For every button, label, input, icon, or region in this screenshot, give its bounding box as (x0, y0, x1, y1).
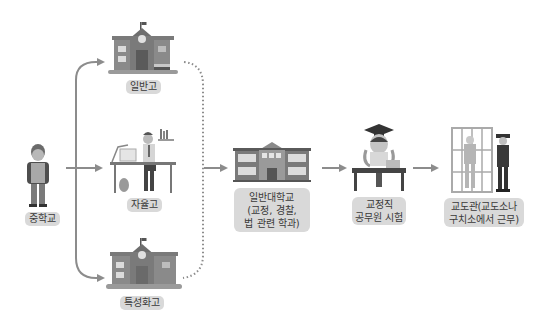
school-building-icon (108, 22, 178, 76)
graduate-studying-icon (350, 122, 408, 192)
prison-guard-icon (448, 126, 518, 194)
arrow-to-general-high (76, 62, 103, 168)
student-with-backpack-icon (18, 142, 58, 210)
autonomous-high-label: 자율고 (127, 198, 162, 212)
school-building-icon (106, 238, 182, 290)
general-high-label: 일반고 (126, 80, 161, 94)
university-building-icon (233, 140, 311, 182)
dotted-merge-line (183, 62, 203, 278)
exam-label: 교정직 공무원 시험 (352, 197, 406, 225)
specialized-high-label: 특성화고 (120, 296, 164, 310)
middle-school-label: 중학교 (25, 212, 60, 226)
student-at-desk-icon (108, 127, 180, 195)
university-label: 일반대학교 (교정, 경찰, 법 관련 학과) (234, 188, 310, 232)
arrow-to-specialized-high (76, 168, 103, 278)
job-label: 교도관(교도소나 구치소에서 근무) (444, 198, 524, 227)
